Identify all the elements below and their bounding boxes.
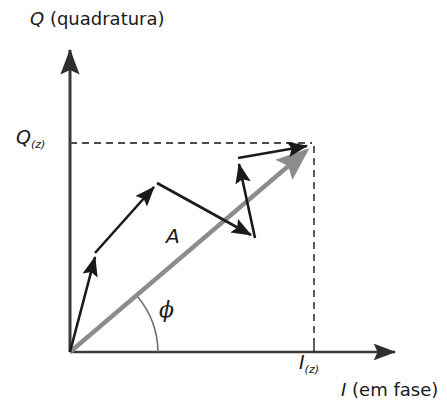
component-vector-1: [70, 257, 95, 352]
phasor-diagram-figure: Q (quadratura) I (em fase) Q(z) I(z) A ϕ: [0, 0, 447, 410]
x-axis-title-text: (em fase): [346, 379, 438, 400]
component-vector-4: [239, 164, 255, 238]
y-axis-title-text: (quadratura): [44, 8, 164, 29]
y-axis-title: Q (quadratura): [30, 10, 165, 28]
i-projection-label: I(z): [299, 353, 319, 375]
q-projection-subscript: (z): [31, 138, 45, 151]
q-projection-symbol: Q: [16, 126, 31, 148]
x-axis-title: I (em fase): [341, 381, 438, 399]
component-vector-2: [95, 187, 154, 253]
diagram-canvas: [0, 0, 447, 410]
phase-angle-arc: [137, 296, 158, 352]
resultant-vector-a: [70, 151, 306, 352]
resultant-amplitude-label: A: [166, 226, 180, 246]
phase-angle-label: ϕ: [159, 299, 174, 321]
y-axis-symbol: Q: [30, 8, 44, 29]
q-projection-label: Q(z): [16, 128, 45, 150]
i-projection-subscript: (z): [305, 363, 319, 376]
